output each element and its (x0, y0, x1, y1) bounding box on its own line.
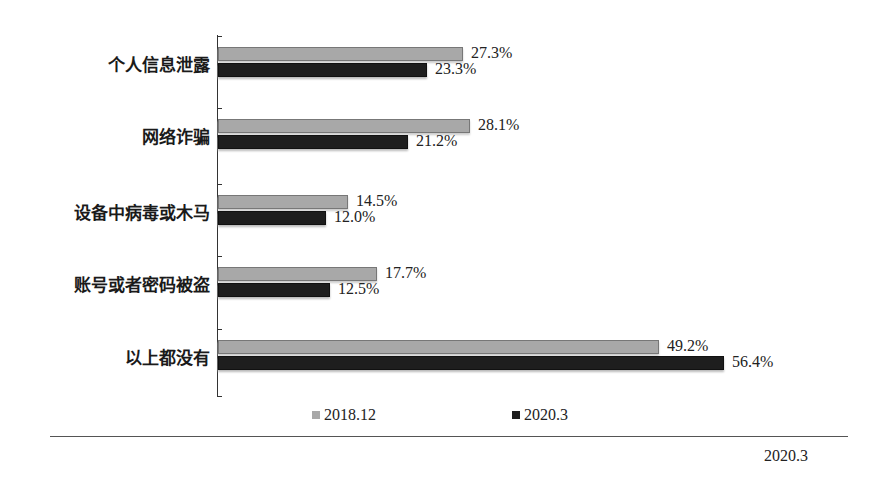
axis-tick (217, 329, 222, 330)
axis-tick (217, 108, 222, 109)
axis-tick (217, 184, 222, 185)
bar-2020-3 (218, 356, 724, 370)
axis-tick (217, 396, 222, 397)
data-label: 27.3% (471, 44, 512, 62)
axis-tick (217, 256, 222, 257)
category-label: 设备中病毒或木马 (74, 199, 210, 224)
data-label: 49.2% (667, 337, 708, 355)
bar-2018-12 (218, 267, 377, 281)
legend-item-2020-3: 2020.3 (512, 406, 568, 424)
bar-2018-12 (218, 47, 463, 61)
bar-2020-3 (218, 135, 408, 149)
bar-2018-12 (218, 195, 348, 209)
legend-swatch-gray (312, 411, 320, 419)
legend-label: 2018.12 (324, 406, 376, 424)
data-label: 17.7% (385, 264, 426, 282)
data-label: 12.0% (334, 208, 375, 226)
bar-2020-3 (218, 283, 330, 297)
category-label: 网络诈骗 (142, 123, 210, 148)
bar-2018-12 (218, 119, 470, 133)
bar-2020-3 (218, 211, 326, 225)
bar-2020-3 (218, 63, 427, 77)
legend-label: 2020.3 (524, 406, 568, 424)
legend-item-2018-12: 2018.12 (312, 406, 376, 424)
data-label: 12.5% (338, 280, 379, 298)
legend-swatch-black (512, 411, 520, 419)
category-label: 以上都没有 (125, 344, 210, 369)
axis-tick (217, 36, 222, 37)
source-date: 2020.3 (764, 447, 808, 465)
data-label: 21.2% (416, 132, 457, 150)
category-label: 个人信息泄露 (108, 51, 210, 76)
divider-line (50, 436, 848, 437)
category-label: 账号或者密码被盗 (74, 271, 210, 296)
data-label: 28.1% (478, 116, 519, 134)
data-label: 23.3% (435, 60, 476, 78)
data-label: 56.4% (732, 353, 773, 371)
bar-2018-12 (218, 340, 659, 354)
